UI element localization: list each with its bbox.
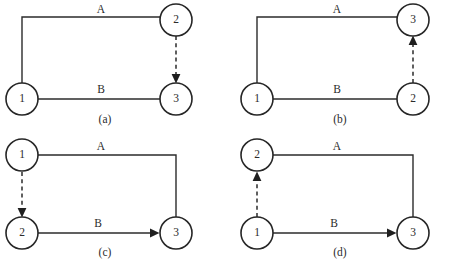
- panel-a-node-2-label: 2: [173, 13, 179, 25]
- panel-b-edge-b-label: B: [333, 83, 341, 95]
- panel-d-edge-b-arrowhead: [387, 229, 397, 238]
- panel-c-node-3-label: 3: [173, 226, 179, 238]
- panel-c-edge-b-arrowhead: [150, 229, 160, 238]
- panel-b-node-1-label: 1: [254, 92, 260, 104]
- panel-d-edge-a-label: A: [333, 140, 342, 152]
- panel-a-edge-b-label: B: [97, 83, 105, 95]
- panel-d: A B 2 1 3 (d): [227, 133, 454, 266]
- panel-a-edge-a-line: [22, 17, 166, 83]
- panel-a-node-1-label: 1: [19, 92, 25, 104]
- panel-a-edge-dep-arrowhead: [172, 74, 181, 84]
- panel-d-edge-a-line: [273, 155, 413, 223]
- panel-b-edge-dep-arrowhead: [409, 36, 418, 46]
- panel-b-node-3-label: 3: [410, 13, 416, 25]
- panel-c-edge-a-label: A: [97, 140, 106, 152]
- panel-c-node-1-label: 1: [19, 148, 25, 160]
- panel-c-edge-a-line: [38, 155, 176, 223]
- panel-d-caption: (d): [333, 246, 347, 259]
- figure-root: A B 1 2 3 (a) A: [0, 0, 454, 266]
- panel-d-node-1-label: 1: [254, 226, 260, 238]
- panel-b-edge-a-label: A: [333, 3, 342, 15]
- panel-c: A B 1 2 3 (c): [0, 133, 227, 266]
- panel-b: A B 1 3 2 (b): [227, 0, 454, 133]
- panel-d-edge-b-label: B: [330, 217, 338, 229]
- panel-d-edge-dep-arrowhead: [253, 172, 262, 182]
- panel-c-node-2-label: 2: [19, 226, 25, 238]
- panel-c-caption: (c): [99, 246, 112, 259]
- panel-c-edge-b-label: B: [94, 217, 102, 229]
- panel-c-edge-dep-arrowhead: [18, 208, 27, 218]
- panel-a: A B 1 2 3 (a): [0, 0, 227, 133]
- panel-b-caption: (b): [333, 113, 347, 126]
- panel-b-edge-a-line: [257, 17, 403, 83]
- panel-b-node-2-label: 2: [410, 92, 416, 104]
- panel-d-node-3-label: 3: [410, 226, 416, 238]
- panel-a-node-3-label: 3: [173, 92, 179, 104]
- panel-a-caption: (a): [99, 113, 112, 126]
- panel-a-edge-a-label: A: [97, 3, 106, 15]
- panel-d-node-2-label: 2: [254, 148, 260, 160]
